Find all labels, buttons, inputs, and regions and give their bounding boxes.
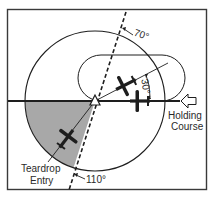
angle-pointer-70 [124, 29, 133, 35]
angle-label-110: 110° [86, 174, 106, 185]
angle-label-30: 30° [139, 78, 152, 95]
teardrop-sector [25, 101, 95, 168]
holding-course-label-2: Course [171, 121, 203, 132]
inbound-arrow-icon [181, 94, 196, 108]
teardrop-entry-label-1: Teardrop [21, 163, 60, 174]
teardrop-entry-label-2: Entry [30, 175, 53, 186]
holding-course-label-1: Holding [168, 110, 202, 121]
holding-racetrack [78, 55, 185, 101]
